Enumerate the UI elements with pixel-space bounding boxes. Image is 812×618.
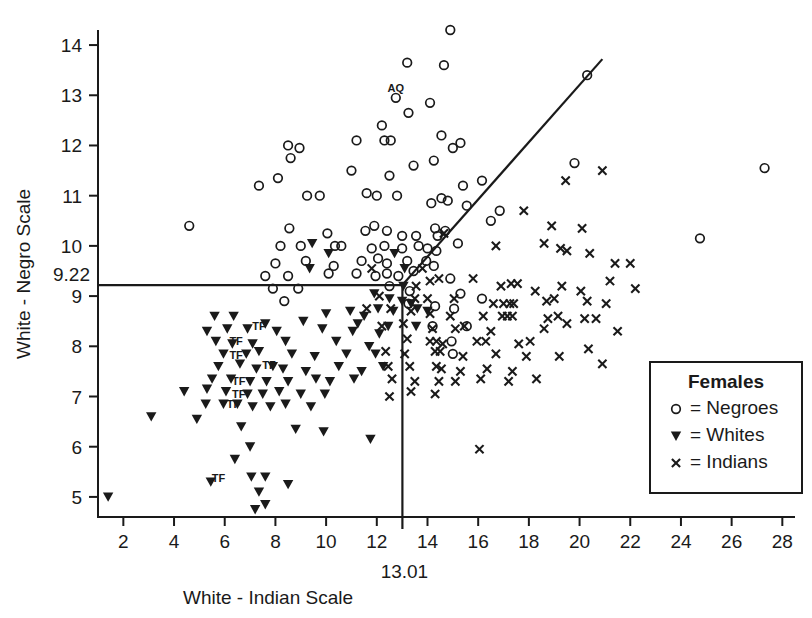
legend-label-negroes: = Negroes	[690, 397, 778, 418]
x-tick-label: 8	[270, 531, 281, 552]
x-tick-label: 4	[169, 531, 180, 552]
x-tick-label: 28	[772, 531, 793, 552]
point-label: TF	[227, 398, 241, 410]
y-axis-title: White - Negro Scale	[13, 189, 34, 359]
y-tick-label: 7	[71, 387, 82, 408]
y-tick-label: 10	[61, 236, 82, 257]
y-tick-label: 5	[71, 487, 82, 508]
x-tick-label: 20	[569, 531, 590, 552]
x-tick-label: 6	[219, 531, 230, 552]
y-tick-label: 12	[61, 135, 82, 156]
y-tick-label: 14	[61, 35, 83, 56]
point-label: TF	[232, 375, 246, 387]
x-tick-label: 10	[316, 531, 337, 552]
x-axis-title: White - Indian Scale	[183, 587, 353, 608]
point-label: TF	[252, 320, 266, 332]
y-tick-label: 6	[71, 437, 82, 458]
legend: Females = Negroes= Whites= Indians	[650, 362, 802, 493]
figure-background	[0, 0, 812, 618]
point-label: TF	[212, 472, 226, 484]
legend-title: Females	[688, 371, 764, 392]
x-tick-label: 14	[417, 531, 439, 552]
point-label: TF	[229, 349, 243, 361]
legend-label-whites: = Whites	[690, 424, 764, 445]
x-axis-cutoff-label: 13.01	[381, 561, 429, 582]
y-axis-cutoff-label: 9.22	[53, 264, 90, 285]
point-label: TF	[229, 335, 243, 347]
scatter-plot-figure: 567891011121314 246810121416182022242628…	[0, 0, 812, 618]
y-tick-label: 11	[62, 186, 82, 207]
x-tick-label: 12	[366, 531, 387, 552]
legend-label-indians: = Indians	[690, 451, 768, 472]
x-tick-label: 26	[721, 531, 742, 552]
chart-canvas: 567891011121314 246810121416182022242628…	[0, 0, 812, 618]
x-tick-label: 16	[468, 531, 489, 552]
point-label: AQ	[388, 82, 405, 94]
point-label: TF	[262, 359, 276, 371]
x-tick-label: 18	[518, 531, 539, 552]
y-tick-label: 13	[61, 85, 82, 106]
x-tick-label: 2	[118, 531, 129, 552]
y-tick-label: 9	[71, 286, 82, 307]
y-tick-label: 8	[71, 336, 82, 357]
x-tick-label: 24	[670, 531, 692, 552]
x-tick-label: 22	[620, 531, 641, 552]
